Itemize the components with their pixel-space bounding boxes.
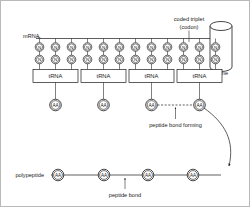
nucleotide: N — [51, 55, 60, 64]
nucleotide-label: N — [102, 57, 105, 62]
diagram-canvas: mRNA coded triplet (codon) ribosome — [1, 1, 250, 207]
nucleotide-label: N — [166, 57, 169, 62]
nucleotide-row-top: N N N N N N N N N N N N — [35, 43, 220, 52]
nucleotide-label: N — [86, 57, 89, 62]
nucleotide: N — [67, 55, 76, 64]
nucleotide: N — [115, 43, 124, 52]
nucleotide: N — [195, 55, 204, 64]
nucleotide-label: N — [134, 45, 137, 50]
nucleotide: N — [35, 43, 44, 52]
amino-acid: AA — [98, 169, 110, 181]
nucleotide: N — [147, 43, 156, 52]
peptide-bond-label: peptide bond — [109, 192, 141, 198]
base-pair-bonds — [40, 51, 216, 55]
mrna-label: mRNA — [23, 33, 40, 39]
nucleotide-label: N — [70, 45, 73, 50]
trna-label: tRNA — [49, 73, 63, 79]
trna-label: tRNA — [145, 73, 159, 79]
nucleotide-label: N — [198, 57, 201, 62]
trna-amino-acid-row: AA AA AA AA — [50, 99, 206, 111]
trna-label: tRNA — [193, 73, 207, 79]
nucleotide-label: N — [54, 57, 57, 62]
forming-peptide-bond — [158, 105, 194, 119]
amino-acid: AA — [142, 169, 154, 181]
coded-triplet-label-line2: (codon) — [180, 24, 199, 30]
coded-triplet-callout: coded triplet (codon) — [174, 16, 205, 42]
amino-acid-label: AA — [196, 103, 203, 108]
nucleotide-label: N — [54, 45, 57, 50]
nucleotide: N — [115, 55, 124, 64]
amino-acid: AA — [194, 99, 206, 111]
amino-acid: AA — [50, 99, 62, 111]
polypeptide-label: polypeptide — [15, 172, 44, 178]
nucleotide: N — [67, 43, 76, 52]
amino-acid-label: AA — [145, 173, 152, 178]
nucleotide-label: N — [38, 57, 41, 62]
trna-molecule: tRNA — [81, 70, 126, 83]
nucleotide-label: N — [86, 45, 89, 50]
nucleotide-label: N — [198, 45, 201, 50]
nucleotide-label: N — [214, 45, 217, 50]
nucleotide: N — [179, 55, 188, 64]
amino-acid: AA — [52, 169, 64, 181]
amino-acid: AA — [187, 169, 199, 181]
nucleotide-row-bottom: N N N N N N N N N N N N — [35, 55, 220, 64]
nucleotide-label: N — [182, 57, 185, 62]
transfer-arrow — [204, 108, 231, 166]
nucleotide-label: N — [38, 45, 41, 50]
nucleotide-label: N — [118, 57, 121, 62]
nucleotide-label: N — [70, 57, 73, 62]
nucleotide-label: N — [134, 57, 137, 62]
nucleotide: N — [195, 43, 204, 52]
nucleotide-label: N — [118, 45, 121, 50]
nucleotide: N — [83, 43, 92, 52]
nucleotide: N — [211, 55, 220, 64]
nucleotide: N — [163, 43, 172, 52]
trna-label: tRNA — [97, 73, 111, 79]
nucleotide: N — [147, 55, 156, 64]
nucleotide: N — [179, 43, 188, 52]
nucleotide: N — [131, 43, 140, 52]
trna-molecule: tRNA — [33, 70, 78, 83]
nucleotide-label: N — [150, 45, 153, 50]
nucleotide: N — [163, 55, 172, 64]
nucleotide: N — [83, 55, 92, 64]
amino-acid: AA — [98, 99, 110, 111]
nucleotide: N — [51, 43, 60, 52]
nucleotide: N — [211, 43, 220, 52]
nucleotide: N — [99, 55, 108, 64]
amino-acid-label: AA — [100, 103, 107, 108]
nucleotide: N — [99, 43, 108, 52]
amino-acid-stems — [56, 83, 200, 100]
nucleotide-label: N — [150, 57, 153, 62]
nucleotide-label: N — [102, 45, 105, 50]
nucleotide: N — [131, 55, 140, 64]
amino-acid-label: AA — [148, 103, 155, 108]
nucleotide: N — [35, 55, 44, 64]
amino-acid-label: AA — [190, 173, 197, 178]
nucleotide-label: N — [166, 45, 169, 50]
trna-connector-stems — [40, 64, 216, 70]
trna-molecule: tRNA — [177, 70, 222, 83]
nucleotide-label: N — [182, 45, 185, 50]
amino-acid-label: AA — [52, 103, 59, 108]
amino-acid-label: AA — [55, 173, 62, 178]
nucleotide-label: N — [214, 57, 217, 62]
amino-acid-label: AA — [101, 173, 108, 178]
protein-synthesis-diagram: mRNA coded triplet (codon) ribosome — [0, 0, 250, 207]
trna-boxes: tRNA tRNA tRNA tRNA — [33, 70, 222, 83]
trna-molecule: tRNA — [129, 70, 174, 83]
peptide-bond-forming-label: peptide bond forming — [149, 122, 202, 128]
coded-triplet-label-line1: coded triplet — [174, 16, 205, 22]
amino-acid: AA — [146, 99, 158, 111]
